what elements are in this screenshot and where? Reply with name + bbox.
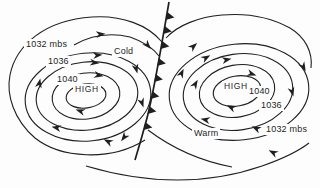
cold-air-mass-label: Cold — [112, 46, 135, 57]
left-high-center-label: HIGH — [73, 84, 101, 95]
right-high-isobars — [86, 15, 314, 180]
pressure-systems-diagram-svg — [0, 0, 320, 188]
right-isobar-outer-label: 1032 mbs — [264, 124, 309, 135]
right-isobar-inner-label: 1040 — [247, 86, 272, 97]
right-isobar-middle-label: 1036 — [259, 100, 284, 111]
left-isobar-middle-label: 1036 — [46, 56, 71, 67]
weather-map-figure: 1032 mbs 1036 1040 HIGH Cold HIGH 1040 1… — [0, 0, 320, 188]
right-high-center-label: HIGH — [222, 81, 250, 92]
warm-air-mass-label: Warm — [192, 128, 220, 139]
bottom-long-isobar — [86, 143, 309, 180]
right-outer-top-isobar — [166, 15, 311, 68]
left-isobar-outer-label: 1032 mbs — [24, 39, 69, 50]
